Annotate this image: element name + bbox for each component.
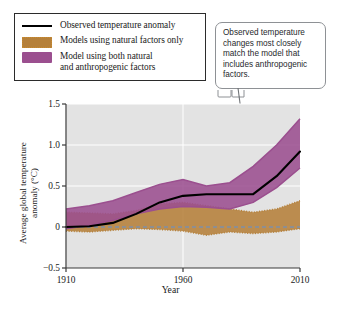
y-axis-tick-label: −0.5 [43,263,60,273]
y-axis-tick-label: 0.5 [48,181,60,191]
figure-root: Observed temperature anomaly Models usin… [0,0,341,315]
x-axis-title: Year [0,284,341,295]
annotation-callout: Observed temperature changes most closel… [215,22,326,89]
legend-item-both: Model using both natural and anthropogen… [22,50,199,73]
legend-label-natural: Models using natural factors only [60,35,183,47]
chart-legend: Observed temperature anomaly Models usin… [14,13,206,81]
legend-item-natural: Models using natural factors only [22,35,199,48]
legend-item-observed: Observed temperature anomaly [22,19,199,32]
temperature-anomaly-chart: Average global temperature anomaly (°C) … [0,96,341,315]
y-axis-tick-label: 1.0 [48,140,60,150]
plot-canvas: −0.500.51.01.5191019602010 [0,96,341,315]
legend-swatch-observed-line [22,19,52,32]
y-axis-tick-label: 0 [55,222,60,232]
legend-label-observed: Observed temperature anomaly [60,19,175,31]
y-axis-title: Average global temperature anomaly (°C) [18,118,40,268]
legend-swatch-natural-band [22,35,52,48]
legend-label-both: Model using both natural and anthropogen… [60,50,155,73]
y-axis-tick-label: 1.5 [48,99,60,109]
legend-swatch-both-band [22,50,52,63]
